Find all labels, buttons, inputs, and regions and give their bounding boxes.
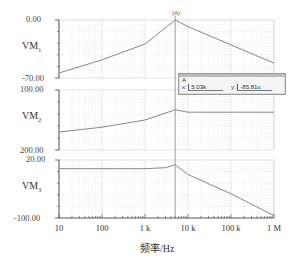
panel3-ytick-top: 20.00 bbox=[26, 154, 45, 164]
x-axis-label: 频率/Hz bbox=[140, 240, 174, 255]
cursor-readout-label: A bbox=[182, 77, 186, 83]
x-tick-label: 1 k bbox=[140, 223, 151, 233]
cursor-marker[interactable]: (A) bbox=[172, 10, 180, 16]
x-tick-label: 10 bbox=[55, 223, 64, 233]
panel1-ytick-top: 0.00 bbox=[26, 14, 41, 24]
x-tick-label: 1 M bbox=[267, 223, 281, 233]
cursor-y-value[interactable]: -85.81u bbox=[237, 84, 272, 91]
bode-plot bbox=[0, 0, 290, 261]
panel2-ylabel: VM2 bbox=[22, 110, 41, 123]
cursor-x-field[interactable]: x: 5.03k bbox=[182, 84, 223, 91]
x-tick-label: 10 k bbox=[181, 223, 196, 233]
cursor-x-value[interactable]: 5.03k bbox=[188, 84, 223, 91]
panel2-ytick-top: 100.00 bbox=[20, 84, 43, 94]
x-tick-label: 100 bbox=[96, 223, 109, 233]
cursor-readout-titlebar[interactable] bbox=[179, 74, 285, 77]
panel1-ylabel: VM1 bbox=[22, 40, 41, 53]
panel3-ylabel: VM3 bbox=[22, 180, 41, 193]
cursor-readout-window[interactable]: A x: 5.03k y: -85.81u bbox=[178, 73, 286, 95]
cursor-y-field[interactable]: y: -85.81u bbox=[231, 84, 272, 91]
panel1-ytick-bottom: -70.00 bbox=[22, 73, 44, 83]
x-tick-label: 100 k bbox=[221, 223, 240, 233]
panel3-ytick-bottom: -100.00 bbox=[14, 213, 40, 223]
